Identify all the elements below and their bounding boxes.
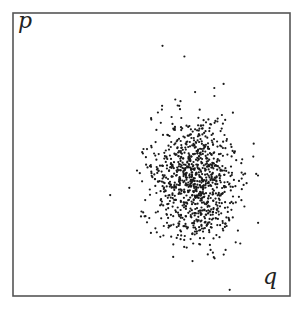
x-axis-label: q — [263, 264, 277, 289]
scatter-plot — [0, 0, 302, 311]
scatter-points — [109, 45, 259, 291]
plot-frame — [13, 13, 290, 296]
y-axis-label: p — [18, 8, 32, 33]
